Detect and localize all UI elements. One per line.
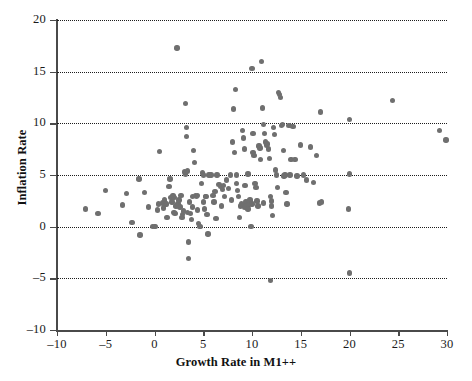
data-point bbox=[245, 171, 250, 176]
data-point bbox=[274, 172, 279, 177]
data-point bbox=[203, 194, 208, 199]
data-point bbox=[103, 188, 108, 193]
data-point bbox=[229, 197, 234, 202]
x-tick-label-15: 15 bbox=[281, 337, 321, 352]
data-point bbox=[205, 231, 210, 236]
data-point bbox=[242, 146, 247, 151]
data-point bbox=[234, 181, 239, 186]
x-tick-label--5: –5 bbox=[86, 337, 126, 352]
y-tick-0 bbox=[50, 227, 56, 228]
data-point bbox=[164, 215, 169, 220]
data-point bbox=[120, 202, 125, 207]
data-point bbox=[280, 122, 285, 127]
data-point bbox=[166, 184, 171, 189]
y-tick-label--10: –10 bbox=[0, 322, 46, 337]
data-point bbox=[318, 109, 323, 114]
x-tick--5 bbox=[106, 330, 107, 336]
y-tick-label--5: –5 bbox=[0, 270, 46, 285]
data-point bbox=[311, 180, 316, 185]
data-point bbox=[186, 239, 191, 244]
data-point bbox=[242, 204, 247, 209]
data-point bbox=[248, 224, 253, 229]
data-point bbox=[232, 150, 237, 155]
data-point bbox=[153, 224, 158, 229]
data-point bbox=[258, 157, 263, 162]
data-point bbox=[231, 106, 236, 111]
data-point bbox=[188, 211, 193, 216]
data-point bbox=[222, 194, 227, 199]
data-point bbox=[189, 217, 194, 222]
data-point bbox=[136, 176, 141, 181]
data-point bbox=[292, 157, 297, 162]
data-point bbox=[186, 256, 191, 261]
data-point bbox=[183, 101, 188, 106]
data-point bbox=[219, 203, 224, 208]
data-point bbox=[234, 172, 239, 177]
data-point bbox=[287, 172, 292, 177]
data-point bbox=[214, 172, 219, 177]
data-point bbox=[314, 153, 319, 158]
x-tick-label--10: –10 bbox=[37, 337, 77, 352]
data-point bbox=[167, 176, 172, 181]
data-point bbox=[319, 199, 324, 204]
y-axis-title: Inflation Rate bbox=[15, 88, 30, 248]
data-point bbox=[213, 216, 218, 221]
y-tick-5 bbox=[50, 175, 56, 176]
data-point bbox=[261, 122, 266, 127]
x-tick-label-10: 10 bbox=[232, 337, 272, 352]
data-point bbox=[284, 201, 289, 206]
x-tick-30 bbox=[447, 330, 448, 336]
data-point bbox=[184, 125, 189, 130]
data-point bbox=[174, 45, 179, 50]
data-point bbox=[185, 168, 190, 173]
data-point bbox=[390, 98, 395, 103]
data-point bbox=[204, 212, 209, 217]
data-point bbox=[173, 203, 178, 208]
data-point bbox=[230, 139, 235, 144]
data-point bbox=[241, 135, 246, 140]
data-point bbox=[281, 148, 286, 153]
data-point bbox=[242, 183, 247, 188]
y-tick--5 bbox=[50, 278, 56, 279]
x-tick-5 bbox=[203, 330, 204, 336]
data-point bbox=[155, 207, 160, 212]
data-point bbox=[236, 194, 241, 199]
data-point bbox=[226, 186, 231, 191]
x-tick-label-0: 0 bbox=[135, 337, 175, 352]
data-point bbox=[201, 172, 206, 177]
data-point bbox=[255, 203, 260, 208]
data-point bbox=[249, 66, 254, 71]
data-point bbox=[250, 131, 255, 136]
gridline-y-20 bbox=[57, 20, 447, 21]
data-point bbox=[124, 191, 129, 196]
data-point bbox=[304, 177, 309, 182]
data-point bbox=[290, 124, 295, 129]
data-point bbox=[278, 95, 283, 100]
data-point bbox=[443, 137, 448, 142]
data-point bbox=[199, 181, 204, 186]
data-point bbox=[237, 215, 242, 220]
data-point bbox=[308, 144, 313, 149]
data-point bbox=[298, 142, 303, 147]
data-point bbox=[259, 59, 264, 64]
data-point bbox=[275, 185, 280, 190]
data-point bbox=[142, 190, 147, 195]
data-point bbox=[266, 146, 271, 151]
data-point bbox=[195, 193, 200, 198]
data-point bbox=[161, 205, 166, 210]
data-point bbox=[212, 189, 217, 194]
x-tick-label-20: 20 bbox=[330, 337, 370, 352]
data-point bbox=[267, 156, 272, 161]
data-point bbox=[195, 207, 200, 212]
data-point bbox=[271, 125, 276, 130]
x-tick-label-30: 30 bbox=[427, 337, 467, 352]
gridline-y-15 bbox=[57, 72, 447, 73]
data-point bbox=[129, 220, 134, 225]
data-point bbox=[269, 203, 274, 208]
data-point bbox=[228, 172, 233, 177]
x-tick-label-5: 5 bbox=[183, 337, 223, 352]
data-point bbox=[347, 171, 352, 176]
data-point bbox=[178, 193, 183, 198]
y-tick-label-15: 15 bbox=[0, 64, 46, 79]
y-tick-label-20: 20 bbox=[0, 12, 46, 27]
